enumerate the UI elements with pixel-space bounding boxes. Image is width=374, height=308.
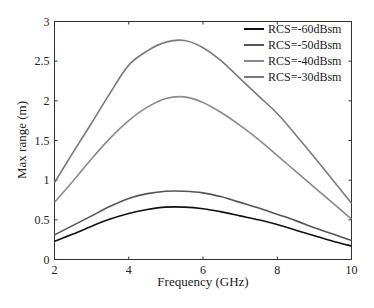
x-tick-label: 8 bbox=[274, 263, 280, 277]
x-tick-label: 4 bbox=[126, 263, 132, 277]
y-tick-label: 1.5 bbox=[35, 134, 50, 148]
y-tick-label: 2.5 bbox=[35, 54, 50, 68]
y-tick-label: 3 bbox=[44, 15, 50, 29]
legend-label: RCS=-40dBsm bbox=[268, 54, 342, 68]
y-tick-label: 0.5 bbox=[35, 213, 50, 227]
y-tick-label: 2 bbox=[44, 94, 50, 108]
x-tick-label: 2 bbox=[52, 263, 58, 277]
legend-label: RCS=-50dBsm bbox=[268, 38, 342, 52]
y-axis-label: Max range (m) bbox=[14, 101, 29, 179]
y-tick-label: 1 bbox=[44, 173, 50, 187]
chart: 246810 00.511.522.53 Frequency (GHz) Max… bbox=[0, 0, 374, 308]
y-tick-label: 0 bbox=[44, 253, 50, 267]
x-tick-label: 10 bbox=[346, 263, 358, 277]
legend-label: RCS=-60dBsm bbox=[268, 22, 342, 36]
x-axis-label: Frequency (GHz) bbox=[157, 274, 248, 289]
legend-label: RCS=-30dBsm bbox=[268, 70, 342, 84]
